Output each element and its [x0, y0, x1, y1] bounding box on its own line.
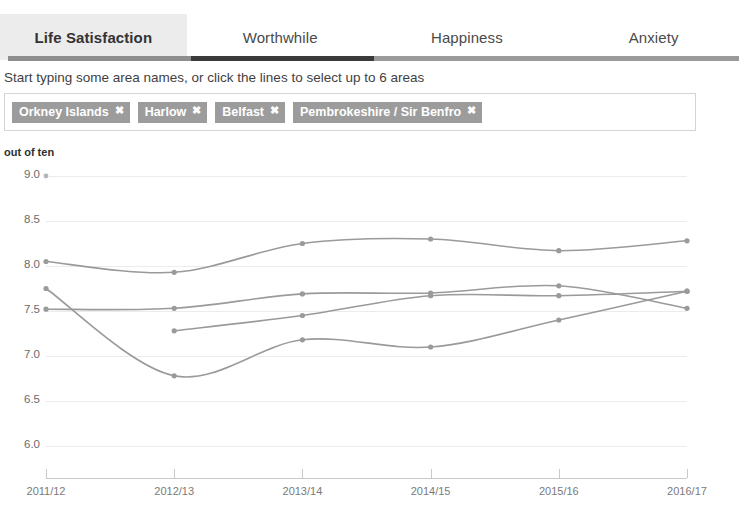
tab-label: Anxiety — [629, 29, 679, 46]
area-tag-label: Harlow — [145, 105, 187, 119]
tab-label: Worthwhile — [243, 29, 318, 46]
tab-label: Happiness — [431, 29, 503, 46]
data-point-marker[interactable] — [300, 291, 305, 296]
data-point-marker[interactable] — [43, 286, 48, 291]
data-point-marker[interactable] — [428, 344, 433, 349]
data-point-marker[interactable] — [428, 293, 433, 298]
area-tag-harlow[interactable]: Harlow ✖ — [138, 102, 208, 123]
area-search-input[interactable]: Orkney Islands ✖ Harlow ✖ Belfast ✖ Pemb… — [4, 93, 696, 131]
close-icon[interactable]: ✖ — [115, 105, 124, 116]
data-point-marker[interactable] — [300, 313, 305, 318]
data-point-marker[interactable] — [300, 337, 305, 342]
tab-underline — [8, 56, 739, 61]
data-point-marker[interactable] — [172, 328, 177, 333]
chart-series[interactable] — [43, 286, 689, 379]
data-point-marker[interactable] — [172, 306, 177, 311]
x-axis-tick-label: 2015/16 — [539, 485, 579, 497]
data-point-marker[interactable] — [556, 248, 561, 253]
tab-underline-segment — [374, 56, 557, 61]
area-tag-pembrokeshire[interactable]: Pembrokeshire / Sir Benfro ✖ — [293, 102, 482, 123]
series-line[interactable] — [46, 238, 687, 272]
chart-series[interactable] — [43, 236, 689, 275]
data-point-marker[interactable] — [556, 293, 561, 298]
tab-life-satisfaction[interactable]: Life Satisfaction — [0, 14, 187, 60]
tab-happiness[interactable]: Happiness — [374, 14, 561, 60]
x-axis-tick-mark — [302, 469, 303, 478]
data-point-marker[interactable] — [556, 317, 561, 322]
data-point-marker[interactable] — [684, 289, 689, 294]
data-point-marker[interactable] — [684, 306, 689, 311]
x-axis-tick-label: 2016/17 — [667, 485, 707, 497]
tab-worthwhile[interactable]: Worthwhile — [187, 14, 374, 60]
x-axis-tick-mark — [174, 469, 175, 478]
data-point-marker[interactable] — [172, 270, 177, 275]
area-tag-label: Belfast — [222, 105, 264, 119]
x-axis-tick-label: 2011/12 — [27, 485, 66, 497]
x-axis-tick-label: 2013/14 — [283, 485, 323, 497]
chart-series[interactable] — [172, 289, 690, 334]
tab-label: Life Satisfaction — [35, 29, 153, 46]
data-point-marker[interactable] — [172, 373, 177, 378]
data-point-marker[interactable] — [556, 283, 561, 288]
x-axis-tick-label: 2012/13 — [154, 485, 194, 497]
series-line[interactable] — [46, 289, 687, 378]
data-point-marker[interactable] — [43, 307, 48, 312]
series-line[interactable] — [46, 285, 687, 309]
x-axis-tick-mark — [687, 469, 688, 478]
x-axis-tick-label: 2014/15 — [411, 485, 451, 497]
area-tag-orkney-islands[interactable]: Orkney Islands ✖ — [12, 102, 130, 123]
x-axis-tick-mark — [46, 469, 47, 478]
x-axis-tick-mark — [431, 469, 432, 478]
close-icon[interactable]: ✖ — [467, 105, 476, 116]
chart-plot-area[interactable] — [0, 140, 747, 526]
tab-underline-segment — [556, 56, 739, 61]
data-point-marker[interactable] — [428, 236, 433, 241]
area-tag-label: Orkney Islands — [19, 105, 109, 119]
x-axis-line — [46, 478, 687, 479]
help-text: Start typing some area names, or click t… — [4, 70, 424, 85]
x-axis-tick-mark — [559, 469, 560, 478]
tab-underline-segment — [191, 56, 374, 61]
life-satisfaction-line-chart: out of ten 9.08.58.07.57.06.56.0 2011/12… — [0, 140, 747, 526]
data-point-marker[interactable] — [684, 238, 689, 243]
data-point-marker[interactable] — [300, 241, 305, 246]
tab-underline-segment-active — [8, 56, 191, 61]
axis-top-marker — [44, 174, 49, 179]
area-tag-label: Pembrokeshire / Sir Benfro — [300, 105, 461, 119]
area-tag-belfast[interactable]: Belfast ✖ — [215, 102, 285, 123]
tab-anxiety[interactable]: Anxiety — [560, 14, 747, 60]
data-point-marker[interactable] — [43, 259, 48, 264]
metric-tabs: Life Satisfaction Worthwhile Happiness A… — [0, 14, 747, 60]
chart-series[interactable] — [43, 283, 689, 312]
close-icon[interactable]: ✖ — [192, 105, 201, 116]
close-icon[interactable]: ✖ — [270, 105, 279, 116]
